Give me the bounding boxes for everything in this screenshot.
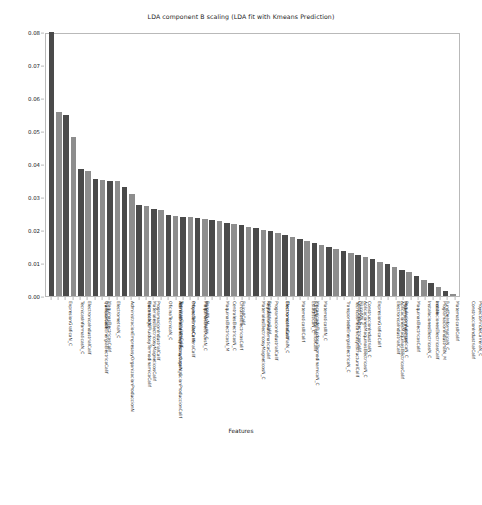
y-tick-label: 0.00 (28, 294, 40, 300)
x-tick-label-cell: ExpresionGraficaN_C (48, 301, 54, 421)
x-tick-label-cell: ProyectoFinDeCarreraCalif (165, 301, 171, 421)
bar (188, 217, 194, 296)
bar (406, 272, 412, 296)
bar (71, 137, 77, 296)
x-tick-label-cell: FisicaIVN_C (349, 301, 355, 421)
bar (297, 239, 303, 296)
bar (180, 217, 186, 296)
x-tick-label-cell: AdministracionEmpresasyOrganizacionProdu… (121, 301, 127, 421)
y-tick-label: 0.07 (28, 63, 40, 69)
x-tick-label-cell: aceite (430, 301, 436, 421)
bar (56, 112, 62, 296)
x-tick-label-cell: ElectrometriaCalif (268, 301, 274, 421)
y-tick-label: 0.08 (28, 30, 40, 36)
x-tick-label-cell: TecnicasCircuitosCalif (158, 301, 164, 421)
bar (421, 280, 427, 297)
x-tick-label-cell: FundDeInformaticaN_C (422, 301, 428, 421)
y-tick-mark (41, 231, 44, 232)
x-tick-label-cell: RegulacionAutomaticaN_C (378, 301, 384, 421)
x-tick-label-cell: ProgramacionIndustrialCalif (246, 301, 252, 421)
plot-area (45, 33, 460, 297)
bar (78, 169, 84, 296)
x-tick-label-cell: TecnicasMecanicasyEstructuralCalif (320, 301, 326, 421)
bar (100, 180, 106, 296)
bar (392, 267, 398, 296)
x-tick-label-cell: ProgramacionIndustrialCalif (129, 301, 135, 421)
bar (49, 32, 55, 296)
chart-title: LDA component B scaling (LDA fit with Km… (0, 13, 482, 20)
y-tick-mark (41, 165, 44, 166)
x-tick-label-cell: MatematicasIIICalif (283, 301, 289, 421)
bar (85, 171, 91, 296)
bar (209, 220, 215, 296)
bar (107, 181, 113, 297)
y-tick-mark (41, 198, 44, 199)
x-tick-label-cell: RegulacionAutomaticaCalif (239, 301, 245, 421)
bar (202, 219, 208, 296)
bar (428, 283, 434, 296)
y-tick-mark (41, 297, 44, 298)
x-tick-label-cell: AdministracionEmpresasyOrganizacionProdu… (77, 301, 83, 421)
bar (312, 243, 318, 296)
x-tick-label-cell: CentralesElectricasCalif (334, 301, 340, 421)
y-tick-mark (41, 264, 44, 265)
x-tick-label-cell: ElectronicaIndustrialCalif (371, 301, 377, 421)
matplotlib-figure: LDA component B scaling (LDA fit with Km… (0, 0, 482, 505)
y-tick-label: 0.01 (28, 261, 40, 267)
x-tick-label-cell: FisicaIICalif (231, 301, 237, 421)
x-tick-label-cell: MaterialesElectricosyMagneticosCalif (114, 301, 120, 421)
bar (443, 291, 449, 296)
x-tick-label-cell: EstadisticaN_C (298, 301, 304, 421)
x-tick-label-cell: MaquinasElectricasCalif (85, 301, 91, 421)
bar (261, 230, 267, 296)
bar (333, 249, 339, 296)
bar (414, 276, 420, 296)
x-tick-label-cell: ProyectoFinDeCarreraN_C (452, 301, 458, 421)
x-tick-label-cell: TransportedeEnergiaElectricaCalif (70, 301, 76, 421)
x-tick-label-cell: QuimicaN_C (136, 301, 142, 421)
bar (63, 115, 69, 296)
y-tick-label: 0.06 (28, 96, 40, 102)
x-tick-label-cell: MecanicadeFluidosyTermodinamicaCalif (107, 301, 113, 421)
bar (355, 255, 361, 296)
y-tick-label: 0.05 (28, 129, 40, 135)
x-tick-label-cell: CircuitosElectricosCalif (217, 301, 223, 421)
bar (341, 251, 347, 296)
bar (231, 224, 237, 296)
bar (377, 262, 383, 296)
bar (363, 257, 369, 296)
bar (370, 259, 376, 296)
x-tick-label-cell: FundDeInformaticaCalif (290, 301, 296, 421)
y-tick-mark (41, 33, 44, 34)
y-tick-label: 0.03 (28, 195, 40, 201)
bar (253, 228, 259, 296)
x-tick-label-cell: ProgramacionIndustrialN_M (415, 301, 421, 421)
x-tick-label-cell: OficinaTecnicaN_C (151, 301, 157, 421)
x-tick-label-cell: QuimicaCalif (92, 301, 98, 421)
bar (239, 225, 245, 296)
x-tick-label: ConstruccionIndustrialCalif (471, 301, 476, 359)
x-tick-label-cell: TecnicasInformaticasN_C (55, 301, 61, 421)
bar (290, 237, 296, 296)
x-tick-label-cell: ExpresionGraficaCalif (356, 301, 362, 421)
bar (151, 209, 157, 296)
x-tick-label-cell: MaquinasElectricasN_C (180, 301, 186, 421)
x-tick-label-cell: ElectronicaIndustrialCalif (63, 301, 69, 421)
y-tick-label: 0.04 (28, 162, 40, 168)
x-tick-label-cell: MaquinasElectricasCalif (393, 301, 399, 421)
bar (450, 294, 456, 296)
x-tick-label-cell: InstalacionesElectricasCalif (408, 301, 414, 421)
bar (304, 241, 310, 296)
x-tick-label-cell: InstalacionesElectricasN_C (400, 301, 406, 421)
bar-series (46, 34, 459, 296)
bar (348, 253, 354, 296)
bar (319, 245, 325, 296)
x-tick-label-cell: MaquinasElectricasN_M (202, 301, 208, 421)
bar (217, 221, 223, 296)
x-tick-label-cell: EstadisticaCalif (254, 301, 260, 421)
x-tick-label-cell: MaterialesElectricosyMagneticosN_C (224, 301, 230, 421)
x-tick-label-cell: ElectrometriaN_C (99, 301, 105, 421)
x-tick-label-cell: OficinaTecnicaCalif (173, 301, 179, 421)
bar (275, 233, 281, 296)
bar (166, 215, 172, 296)
